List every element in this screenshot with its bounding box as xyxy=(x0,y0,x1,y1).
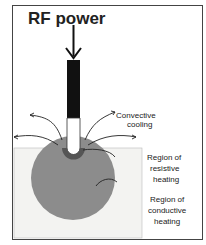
label-conductive-2: conductive xyxy=(148,206,187,215)
label-conductive-3: heating xyxy=(154,217,180,226)
label-conductive-1: Region of xyxy=(150,195,185,204)
title: RF power xyxy=(28,9,106,28)
rf-ablation-diagram: RF power Convective cooling Region of re… xyxy=(0,0,206,245)
probe-tip xyxy=(67,118,80,155)
label-convective: Convective xyxy=(116,111,156,120)
label-resistive-2: resistive xyxy=(150,164,180,173)
probe-shaft xyxy=(67,60,80,118)
label-cooling: cooling xyxy=(127,120,152,129)
label-resistive-1: Region of xyxy=(147,153,182,162)
label-resistive-3: heating xyxy=(153,175,179,184)
